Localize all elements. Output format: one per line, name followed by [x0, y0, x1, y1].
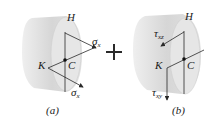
label-sigma-x-top: σx	[92, 36, 101, 49]
label-k: K	[38, 60, 45, 71]
label-h: H	[67, 12, 75, 23]
shaft-a-drawing	[0, 0, 105, 121]
cross-section-face	[51, 17, 81, 91]
label-h: H	[185, 11, 193, 22]
caption-b: (b)	[172, 104, 185, 116]
label-tau-xz: τxz	[154, 28, 164, 41]
label-sigma-x-bottom: σx	[71, 87, 80, 100]
label-c: C	[187, 60, 194, 71]
label-c: C	[68, 60, 75, 71]
panel-b-shear-stress: H K C τxz τxy (b)	[105, 0, 211, 121]
point-c	[63, 58, 67, 62]
label-k: K	[155, 60, 162, 71]
caption-a: (a)	[46, 104, 59, 116]
cross-section-face	[170, 18, 200, 94]
label-tau-xy: τxy	[152, 87, 162, 100]
panel-a-normal-stress: H K C σx σx (a)	[0, 0, 105, 121]
point-c	[182, 57, 186, 61]
